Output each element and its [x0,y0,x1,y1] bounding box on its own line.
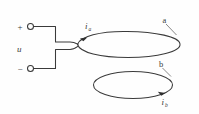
terminals-group [28,24,34,72]
leader-line-b [163,68,172,77]
loop-b-label: b [159,59,163,69]
negative-terminal[interactable] [28,66,34,72]
positive-lead-wire [34,27,79,45]
loop-a-outline [78,31,181,57]
labels-group: + − u i a i b a b [17,15,168,108]
positive-sign-label: + [18,22,23,32]
positive-terminal[interactable] [28,24,34,30]
loop-a-label: a [163,15,167,25]
negative-sign-label: − [18,64,23,74]
source-wiring-group [34,27,79,69]
figure-root: + − u i a i b a b [0,0,199,114]
current-b-subscript: b [165,102,168,108]
leader-line-a [166,24,177,35]
current-a-subscript: a [89,26,92,32]
current-a-symbol: i [85,21,88,31]
loop-a-group [78,31,181,57]
negative-lead-wire [34,46,79,68]
circuit-diagram-canvas: + − u i a i b a b [0,0,199,114]
voltage-label: u [17,44,22,54]
current-b-symbol: i [162,97,165,107]
